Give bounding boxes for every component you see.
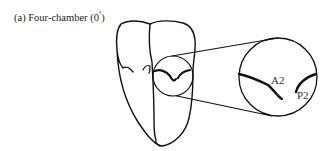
right-heart-outline bbox=[149, 21, 195, 146]
leaflet-a2-small bbox=[155, 70, 176, 80]
label-a2: A2 bbox=[271, 74, 284, 86]
septal-notch bbox=[143, 66, 150, 73]
label-p2: P2 bbox=[297, 89, 309, 101]
zoom-circle-small bbox=[153, 56, 193, 96]
leaflet-p2-small bbox=[178, 70, 190, 78]
heart-diagram: A2 P2 bbox=[0, 0, 336, 151]
